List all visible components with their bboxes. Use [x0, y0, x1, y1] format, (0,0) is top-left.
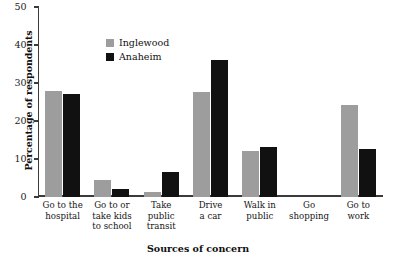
category-label-line: Take	[137, 200, 186, 211]
category-label-line: Drive	[186, 200, 235, 211]
y-tick-label-50: 50	[14, 1, 26, 12]
category-label-line: Walk in	[235, 200, 284, 211]
x-axis-title: Sources of concern	[0, 243, 396, 254]
legend-item-anaheim: Anaheim	[106, 51, 169, 62]
category-label: Go to thehospital	[38, 200, 87, 221]
category-label: Go towork	[334, 200, 383, 221]
y-axis-line	[38, 7, 39, 197]
y-tick-label-20: 20	[14, 115, 26, 126]
bar-anaheim	[260, 147, 277, 197]
y-tick-50: 50	[34, 6, 39, 7]
legend-item-inglewood: Inglewood	[106, 37, 169, 48]
category-label: Drivea car	[186, 200, 235, 221]
y-tick-0: 0	[34, 196, 39, 197]
bar-inglewood	[242, 151, 259, 197]
category-label: Go to ortake kidsto school	[87, 200, 136, 232]
bar-inglewood	[94, 180, 111, 197]
bar-anaheim	[211, 60, 228, 197]
category-label: Walk inpublic	[235, 200, 284, 221]
category-label-line: public	[235, 211, 284, 222]
bar-anaheim	[112, 189, 129, 197]
legend-label-inglewood: Inglewood	[119, 37, 169, 48]
y-tick-10: 10	[34, 158, 39, 159]
bar-group	[292, 7, 327, 197]
category-label-line: Go to or	[87, 200, 136, 211]
legend-swatch-inglewood	[106, 39, 114, 47]
y-tick-label-0: 0	[20, 191, 26, 202]
category-label-line: Go	[284, 200, 333, 211]
category-label-line: Go to the	[38, 200, 87, 211]
plot-area: 01020304050 Go to thehospitalGo to ortak…	[38, 7, 383, 197]
category-label-line: take kids	[87, 211, 136, 222]
category-label-line: Go to	[334, 200, 383, 211]
y-tick-label-10: 10	[14, 153, 26, 164]
bar-inglewood	[144, 192, 161, 197]
bar-group	[193, 7, 228, 197]
bar-chart: Percentage of respondents 01020304050 Go…	[0, 0, 396, 256]
legend-swatch-anaheim	[106, 53, 114, 61]
bar-group	[144, 7, 179, 197]
bar-inglewood	[193, 92, 210, 197]
category-label-line: to school	[87, 221, 136, 232]
bar-group	[45, 7, 80, 197]
category-label-line: shopping	[284, 211, 333, 222]
y-tick-label-40: 40	[14, 39, 26, 50]
bar-group	[341, 7, 376, 197]
bar-anaheim	[63, 94, 80, 197]
y-tick-20: 20	[34, 120, 39, 121]
bar-anaheim	[162, 172, 179, 197]
bar-group	[94, 7, 129, 197]
bar-group	[242, 7, 277, 197]
category-label-line: work	[334, 211, 383, 222]
bar-inglewood	[341, 105, 358, 197]
category-label: Takepublictransit	[137, 200, 186, 232]
category-label-line: transit	[137, 221, 186, 232]
y-tick-label-30: 30	[14, 77, 26, 88]
legend-label-anaheim: Anaheim	[119, 51, 161, 62]
y-tick-40: 40	[34, 44, 39, 45]
y-tick-30: 30	[34, 82, 39, 83]
bar-anaheim	[359, 149, 376, 197]
category-label-line: public	[137, 211, 186, 222]
category-label: Goshopping	[284, 200, 333, 221]
category-label-line: a car	[186, 211, 235, 222]
legend: Inglewood Anaheim	[106, 37, 169, 65]
bar-inglewood	[45, 91, 62, 197]
category-label-line: hospital	[38, 211, 87, 222]
